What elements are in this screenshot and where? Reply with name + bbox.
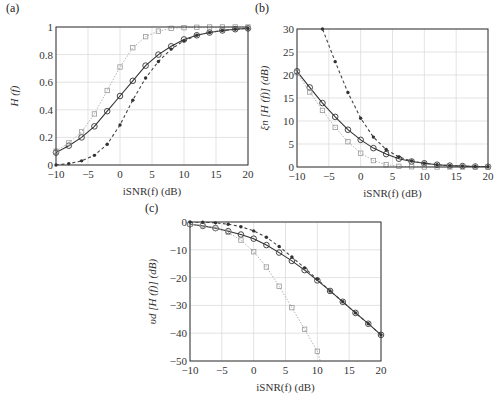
x-tick-label: 0 [251,364,257,376]
x-axis-label: iSNR(f) (dB) [363,187,422,200]
panel-label: (c) [145,201,158,215]
x-tick-label: 0 [117,168,123,180]
x-tick-label: 20 [483,170,495,182]
y-tick-label: −40 [170,327,188,339]
marker-star [252,229,255,232]
marker-star [334,60,337,63]
chart-panel-c: −10−505101520−50−40−30−20−100iSNR(f) (dB… [145,201,387,394]
y-tick-label: 30 [283,23,295,35]
marker-star [227,223,230,226]
y-tick-label: 0.4 [39,104,53,116]
marker-square [302,327,306,331]
x-tick-label: 0 [358,170,364,182]
y-axis-label: ξn [H (f)] (dB) [258,65,271,130]
y-tick-label: 0.8 [39,49,53,61]
chart-panel-b: −10−505101520051015202530iSNR(f) (dB)ξn … [255,1,494,200]
y-tick-label: 20 [283,69,295,81]
x-tick-label: 5 [149,168,155,180]
marker-star [93,154,96,157]
y-tick-label: 15 [283,92,295,104]
x-axis-label: iSNR(f) (dB) [256,381,315,394]
marker-star [372,135,375,138]
marker-star [367,322,370,325]
marker-star [410,159,413,162]
y-tick-label: 0 [48,159,54,171]
y-tick-label: 10 [283,115,295,127]
marker-star [435,163,438,166]
y-axis-label: υd [H (f)] (dB) [146,259,159,325]
x-tick-label: −5 [82,168,94,180]
x-tick-label: 5 [283,364,289,376]
y-tick-label: 25 [283,46,295,58]
y-tick-label: −10 [170,244,188,256]
marker-star [144,76,147,79]
x-tick-label: 20 [376,364,388,376]
marker-star [221,29,224,32]
x-tick-label: −5 [323,170,335,182]
marker-star [106,143,109,146]
marker-star [328,289,331,292]
marker-star [239,225,242,228]
marker-star [359,117,362,120]
y-tick-label: 0.2 [39,131,53,143]
y-tick-label: 0 [289,161,295,173]
x-axis-label: iSNR(f) (dB) [123,185,182,198]
marker-star [290,255,293,258]
figure-canvas: −10−50510152000.20.40.60.81iSNR(f) (dB)H… [0,0,503,401]
marker-star [182,39,185,42]
marker-star [384,148,387,151]
y-tick-label: −50 [170,355,188,367]
marker-star [303,266,306,269]
y-tick-label: −30 [170,299,188,311]
y-tick-label: 1 [48,21,54,33]
x-tick-label: 10 [419,170,431,182]
marker-star [118,123,121,126]
y-tick-label: 0.6 [39,76,53,88]
x-tick-label: 10 [179,168,191,180]
marker-star [277,245,280,248]
marker-star [346,91,349,94]
marker-star [316,278,319,281]
marker-star [80,159,83,162]
marker-square [105,88,109,92]
y-axis-label: H (f) [8,85,21,107]
marker-star [341,300,344,303]
x-tick-label: 20 [243,168,255,180]
x-tick-label: 15 [451,170,463,182]
x-tick-label: 15 [344,364,356,376]
marker-star [423,162,426,165]
y-tick-label: −20 [170,272,188,284]
y-tick-label: 0 [182,216,188,228]
series-line-square-dotted [190,224,321,364]
marker-star [195,34,198,37]
marker-star [170,47,173,50]
marker-star [208,31,211,34]
panel-label: (a) [6,1,19,15]
marker-star [354,311,357,314]
x-tick-label: 15 [211,168,223,180]
marker-star [131,98,134,101]
y-tick-label: 5 [289,138,295,150]
x-tick-label: 10 [312,364,324,376]
panel-label: (b) [255,1,269,15]
chart-panel-a: −10−50510152000.20.40.60.81iSNR(f) (dB)H… [6,1,254,198]
marker-star [234,28,237,31]
x-tick-label: −5 [216,364,228,376]
marker-star [397,155,400,158]
x-tick-label: 5 [390,170,396,182]
series-line-star-dashed [323,24,489,166]
marker-star [157,60,160,63]
marker-star [265,236,268,239]
